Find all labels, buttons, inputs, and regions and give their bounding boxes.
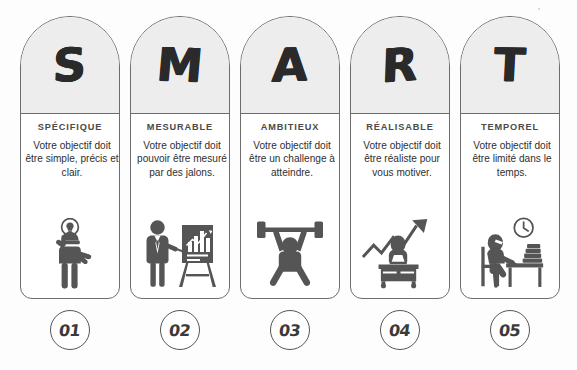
step-number-label-01: 01 (58, 321, 82, 340)
step-number-badge-03[interactable]: 03 (270, 310, 310, 350)
panel-description-specifique: Votre objectif doit être simple, précis … (25, 139, 119, 179)
panels-row: S SPÉCIFIQUE Votre objectif doit être si… (20, 16, 560, 299)
step-number-cell-4: 04 (350, 310, 450, 350)
step-number-badge-05[interactable]: 05 (490, 310, 530, 350)
step-number-badge-04[interactable]: 04 (380, 310, 420, 350)
person-studying-with-clock-and-books-icon (471, 216, 549, 290)
weightlifter-barbell-icon (251, 216, 329, 290)
panel-title-temporel: TEMPOREL (481, 122, 539, 132)
panel-body-ambitieux: AMBITIEUX Votre objectif doit être un ch… (241, 114, 339, 298)
panel-description-realisable: Votre objectif doit être réaliste pour v… (355, 139, 449, 179)
letter-s: S (53, 41, 88, 89)
panel-head-s: S (21, 17, 119, 114)
person-with-idea-lightbulb-icon (31, 216, 109, 290)
panel-description-temporel: Votre objectif doit être limité dans le … (465, 139, 559, 179)
panel-head-m: M (131, 17, 229, 114)
step-number-label-03: 03 (278, 321, 302, 340)
speck-artifact (538, 8, 540, 10)
step-number-label-05: 05 (498, 321, 522, 340)
panel-mesurable[interactable]: M MESURABLE Votre objectif doit pouvoir … (130, 16, 230, 299)
step-number-badge-02[interactable]: 02 (160, 310, 200, 350)
step-number-label-02: 02 (168, 321, 192, 340)
smart-goals-infographic: S SPÉCIFIQUE Votre objectif doit être si… (0, 0, 577, 370)
step-number-cell-2: 02 (130, 310, 230, 350)
panel-title-ambitieux: AMBITIEUX (261, 122, 320, 132)
presenter-with-bar-chart-easel-icon (141, 216, 219, 290)
panel-title-realisable: RÉALISABLE (366, 122, 434, 132)
step-number-cell-5: 05 (460, 310, 560, 350)
step-number-badge-01[interactable]: 01 (50, 310, 90, 350)
panel-body-realisable: RÉALISABLE Votre objectif doit être réal… (351, 114, 449, 298)
letter-r: R (381, 41, 418, 89)
panel-temporel[interactable]: T TEMPOREL Votre objectif doit être limi… (460, 16, 560, 299)
panel-description-mesurable: Votre objectif doit pouvoir être mesuré … (135, 139, 229, 179)
panel-body-mesurable: MESURABLE Votre objectif doit pouvoir êt… (131, 114, 229, 298)
panel-specifique[interactable]: S SPÉCIFIQUE Votre objectif doit être si… (20, 16, 120, 299)
step-number-cell-3: 03 (240, 310, 340, 350)
step-numbers-row: 01 02 03 04 05 (20, 310, 560, 350)
letter-a: A (271, 41, 308, 88)
step-number-cell-1: 01 (20, 310, 120, 350)
letter-m: M (155, 41, 205, 89)
step-number-label-04: 04 (388, 321, 412, 340)
panel-realisable[interactable]: R RÉALISABLE Votre objectif doit être ré… (350, 16, 450, 299)
panel-body-temporel: TEMPOREL Votre objectif doit être limité… (461, 114, 559, 298)
panel-head-r: R (351, 17, 449, 114)
panel-head-t: T (461, 17, 559, 114)
panel-body-specifique: SPÉCIFIQUE Votre objectif doit être simp… (21, 114, 119, 298)
panel-head-a: A (241, 17, 339, 114)
letter-t: T (493, 42, 527, 89)
panel-ambitieux[interactable]: A AMBITIEUX Votre objectif doit être un … (240, 16, 340, 299)
person-at-desk-with-rising-arrow-icon (361, 216, 439, 290)
panel-description-ambitieux: Votre objectif doit être un challenge à … (245, 139, 339, 179)
panel-title-specifique: SPÉCIFIQUE (38, 122, 103, 132)
panel-title-mesurable: MESURABLE (147, 122, 213, 132)
